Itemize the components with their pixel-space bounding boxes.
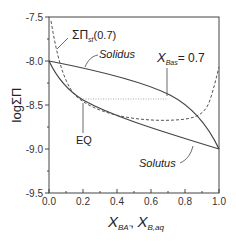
- x-tick-label: 1.0: [212, 196, 226, 207]
- plot-frame: [49, 17, 219, 193]
- x-tick-label: 0.8: [178, 196, 192, 207]
- y-tick-label: -8.0: [26, 56, 44, 67]
- x-label-sub-1: BA': [118, 223, 131, 232]
- solidus-label: Solidus: [99, 48, 136, 60]
- sigma-pi-leader: [57, 38, 68, 49]
- sigma-pi-st-label: ΣΠst(0.7): [72, 28, 116, 43]
- y-tick-label: -9.5: [26, 188, 44, 199]
- x-label-sub-2: B,aq: [147, 223, 164, 232]
- solutus-label: Solutus: [139, 157, 176, 169]
- y-tick-label: -9.0: [26, 144, 44, 155]
- x-tick-label: 0.0: [42, 196, 56, 207]
- y-axis-title: logΣΠ: [9, 88, 24, 123]
- x-label-sep: ,: [130, 215, 137, 230]
- y-axis-ticks: [45, 17, 49, 193]
- y-tick-label: -7.5: [26, 12, 44, 23]
- xbas-value: = 0.7: [178, 51, 205, 65]
- eq-label: EQ: [76, 134, 92, 146]
- solidus-curve: [49, 61, 219, 149]
- phase-diagram-chart: -7.5 -8.0 -8.5 -9.0 -9.5 0.0 0.2 0.4 0.6…: [0, 0, 236, 243]
- x-axis-title: XBA', XB,aq: [107, 213, 164, 232]
- x-tick-label: 0.6: [144, 196, 158, 207]
- xbas-sub: Bas: [166, 59, 179, 66]
- solutus-leader: [180, 146, 193, 163]
- x-tick-label: 0.2: [76, 196, 90, 207]
- xbas-label: XBas= 0.7: [156, 50, 205, 66]
- x-tick-label: 0.4: [110, 196, 124, 207]
- solidus-leader: [85, 55, 98, 67]
- y-tick-label: -8.5: [26, 100, 44, 111]
- sigma-pi-symbol: ΣΠ: [72, 28, 88, 42]
- solutus-curve: [49, 61, 219, 149]
- sigma-pi-arg: (0.7): [94, 29, 117, 41]
- x-axis-ticks: [49, 189, 219, 193]
